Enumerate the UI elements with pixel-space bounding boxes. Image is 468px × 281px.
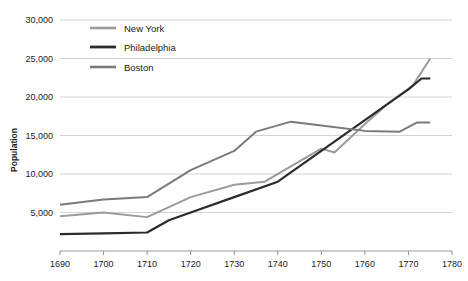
- x-tick-label: 1730: [224, 259, 244, 269]
- x-tick-label: 1690: [50, 259, 70, 269]
- y-tick-label: 25,000: [25, 54, 53, 64]
- chart-legend: New YorkPhiladelphiaBoston: [90, 23, 176, 73]
- chart-canvas: 5,00010,00015,00020,00025,00030,000 1690…: [0, 0, 468, 281]
- y-tick-label: 10,000: [25, 169, 53, 179]
- x-tick-label: 1760: [355, 259, 375, 269]
- x-tick-label: 1710: [137, 259, 157, 269]
- population-line-chart: 5,00010,00015,00020,00025,00030,000 1690…: [0, 0, 468, 281]
- series-line-philadelphia: [60, 79, 430, 235]
- y-tick-label: 20,000: [25, 92, 53, 102]
- y-tick-label: 15,000: [25, 131, 53, 141]
- legend-label-philadelphia: Philadelphia: [124, 42, 176, 53]
- series-lines-group: [60, 59, 430, 235]
- x-tick-label: 1700: [94, 259, 114, 269]
- x-tick-label: 1750: [311, 259, 331, 269]
- y-tick-label: 30,000: [25, 15, 53, 25]
- legend-label-new-york: New York: [124, 23, 164, 34]
- gridlines-group: [60, 20, 452, 213]
- x-tick-label: 1780: [442, 259, 462, 269]
- x-tick-label: 1770: [398, 259, 418, 269]
- y-tick-label: 5,000: [30, 208, 53, 218]
- x-axis-tick-labels: 1690170017101720173017401750176017701780: [50, 259, 462, 269]
- y-axis-label: Population: [9, 128, 19, 172]
- x-axis: [60, 251, 452, 255]
- x-tick-label: 1720: [181, 259, 201, 269]
- y-axis-tick-labels: 5,00010,00015,00020,00025,00030,000: [25, 15, 53, 218]
- legend-label-boston: Boston: [124, 62, 154, 73]
- x-tick-label: 1740: [268, 259, 288, 269]
